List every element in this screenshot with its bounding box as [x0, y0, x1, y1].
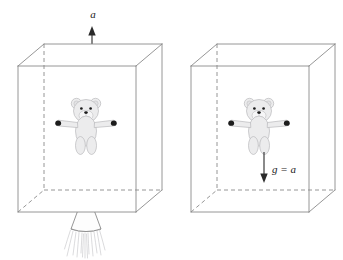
diagram-canvas: a: [0, 0, 343, 260]
physics-figure: a: [0, 0, 343, 260]
panel-gravity-box: g = a: [191, 44, 335, 212]
gravity-label: g = a: [272, 163, 296, 175]
panel-accelerating-box: a: [18, 8, 162, 258]
acceleration-label: a: [90, 8, 96, 20]
exhaust-plume: [65, 230, 106, 258]
rocket-thruster: [65, 210, 106, 258]
